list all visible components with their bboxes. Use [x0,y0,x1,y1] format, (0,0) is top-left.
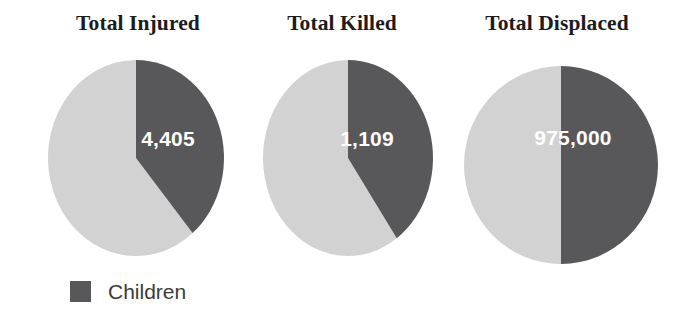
chart-title-total-displaced: Total Displaced [448,13,666,35]
pie-total-killed-svg [263,60,433,256]
chart-title-total-killed: Total Killed [252,13,432,35]
pie-value-total-injured: 4,405 [113,128,223,149]
legend: Children [70,281,186,302]
pie-chart-total-displaced [464,66,658,264]
pie-chart-total-killed [263,60,433,256]
pie-slice-children-displaced [561,66,658,264]
pie-value-total-displaced: 975,000 [505,127,641,148]
pie-chart-figure: Total Injured Total Killed Total Displac… [0,0,675,326]
pie-chart-total-injured [48,60,224,256]
legend-label-children: Children [108,281,186,302]
pie-total-injured-svg [48,60,224,256]
pie-value-total-killed: 1,109 [312,128,422,149]
pie-total-displaced-svg [464,66,658,264]
pie-slice-other-displaced [464,66,561,264]
chart-title-total-injured: Total Injured [38,13,238,35]
legend-swatch-children-icon [70,281,91,302]
